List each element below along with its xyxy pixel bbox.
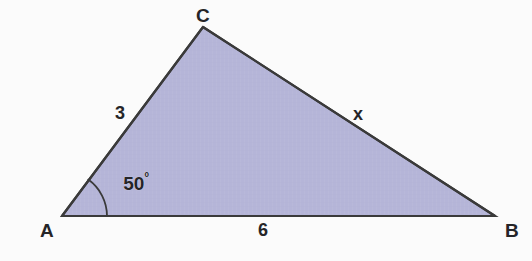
vertex-label-c: C [196,6,210,25]
degree-symbol-icon: º [144,171,148,185]
side-label-ab: 6 [258,221,268,239]
side-label-cb: x [353,105,363,123]
triangle-diagram-canvas: A B C 3 x 6 50º [0,0,532,261]
angle-value: 50 [123,173,144,194]
angle-label-a: 50º [123,174,149,193]
vertex-label-b: B [505,221,519,240]
side-label-ac: 3 [115,104,125,122]
vertex-label-a: A [40,221,54,240]
